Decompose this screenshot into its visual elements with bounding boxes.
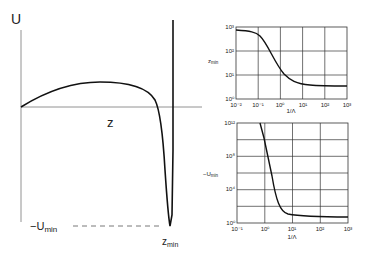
potential-curve — [21, 20, 173, 226]
umin-xlabel: 1/Λ — [287, 234, 296, 240]
zmin-chart: 10³10²10¹10⁰ 10⁻²10⁻¹10⁰ 10¹10²10³ 1/Λ z… — [208, 24, 351, 114]
figure: U z −Umin zmin 10³10²10¹10⁰ 10⁻²10⁻¹10⁰ … — [0, 0, 368, 261]
svg-text:10⁰: 10⁰ — [276, 102, 286, 108]
svg-text:10¹²: 10¹² — [224, 120, 235, 126]
umin-ylabel: −Umin — [203, 171, 219, 178]
main-plot: U z −Umin zmin — [11, 11, 202, 248]
zmin-label: zmin — [162, 236, 178, 248]
svg-text:10⁻²: 10⁻² — [230, 102, 242, 108]
svg-text:10²: 10² — [225, 48, 234, 54]
umin-chart: 10¹²10⁸10⁴10⁰ 10⁻¹10⁰10¹ 10²10³ 1/Λ −Umi… — [203, 120, 352, 240]
umin-curve — [260, 123, 348, 217]
svg-text:10³: 10³ — [344, 226, 353, 232]
z-axis-label: z — [107, 115, 114, 130]
svg-text:10¹: 10¹ — [288, 226, 297, 232]
svg-text:10¹: 10¹ — [225, 72, 234, 78]
umin-label: −Umin — [30, 220, 57, 234]
svg-text:10³: 10³ — [225, 24, 234, 30]
zmin-curve — [236, 30, 347, 86]
svg-text:10⁸: 10⁸ — [226, 153, 236, 159]
svg-text:10⁴: 10⁴ — [226, 186, 236, 192]
zmin-xlabel: 1/Λ — [286, 108, 295, 114]
svg-text:10³: 10³ — [343, 102, 352, 108]
svg-text:10⁻¹: 10⁻¹ — [231, 226, 243, 232]
svg-text:10⁰: 10⁰ — [261, 226, 271, 232]
svg-text:10¹: 10¹ — [299, 102, 308, 108]
u-axis-label: U — [11, 11, 21, 27]
svg-text:10⁻¹: 10⁻¹ — [252, 102, 264, 108]
zmin-ylabel: zmin — [208, 58, 219, 65]
svg-text:10²: 10² — [316, 226, 325, 232]
svg-text:10²: 10² — [321, 102, 330, 108]
